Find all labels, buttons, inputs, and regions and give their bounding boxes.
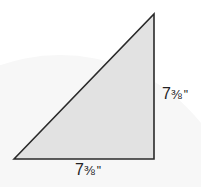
right-triangle: [14, 14, 154, 159]
right-side-length-label: 7⅜": [162, 86, 188, 102]
bottom-side-whole: 7: [75, 161, 84, 178]
bottom-side-unit: ": [97, 164, 101, 178]
right-side-whole: 7: [162, 85, 171, 102]
right-side-fraction: ⅜: [171, 87, 182, 102]
bottom-side-length-label: 7⅜": [75, 162, 101, 178]
right-side-unit: ": [184, 88, 188, 102]
bottom-side-fraction: ⅜: [84, 163, 95, 178]
